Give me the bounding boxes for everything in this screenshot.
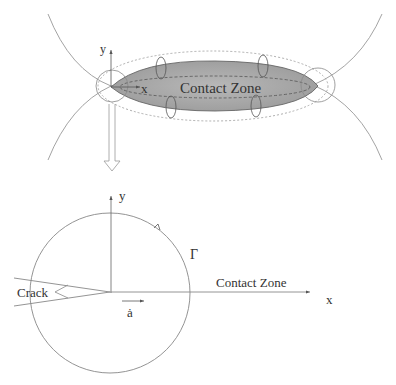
bottom-contact-zone-label: Contact Zone (216, 275, 287, 290)
bottom-y-axis-label: y (119, 188, 126, 203)
contact-crack-diagram: y x Contact Zone y x Crack ȧ Γ Contact Z… (0, 0, 396, 385)
gamma-contour (30, 213, 190, 373)
crack-velocity-label: ȧ (127, 305, 133, 320)
top-y-axis-label: y (100, 42, 106, 56)
hollow-down-arrow-icon (104, 104, 120, 171)
contour-direction-arrow-icon (154, 224, 160, 230)
bottom-x-axis-label: x (326, 292, 333, 307)
top-panel: y x Contact Zone (48, 14, 382, 160)
gamma-label: Γ (190, 247, 198, 262)
crack-label-pointer (55, 285, 68, 298)
top-contact-zone-label: Contact Zone (180, 80, 262, 96)
crack-label: Crack (17, 285, 49, 300)
top-x-axis-label: x (141, 81, 148, 96)
bottom-panel: y x Crack ȧ Γ Contact Zone (14, 188, 333, 373)
